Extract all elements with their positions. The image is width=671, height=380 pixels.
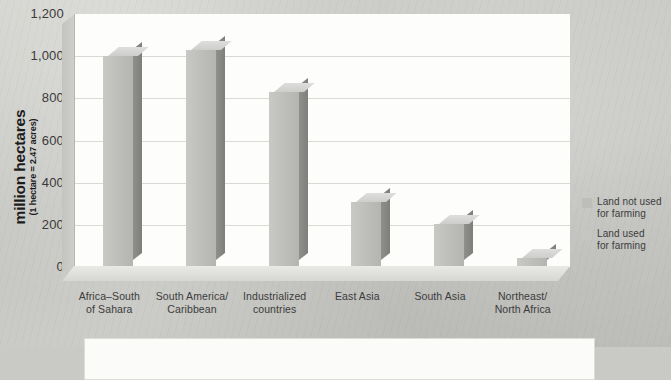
gridline <box>75 225 570 226</box>
x-axis-label-line: Africa–South <box>68 290 151 303</box>
x-axis-label-line: South Asia <box>399 290 482 303</box>
legend-swatch-icon <box>582 198 592 208</box>
plot-area <box>74 14 570 267</box>
bar-front-face <box>269 92 299 267</box>
x-axis-label-line: countries <box>233 303 316 316</box>
x-axis-label-line: East Asia <box>316 290 399 303</box>
legend-label: Land not used <box>597 196 668 208</box>
x-axis-label: East Asia <box>316 290 399 303</box>
gridline <box>75 56 570 57</box>
legend-item[interactable]: Land not usedfor farming <box>582 196 668 220</box>
bar <box>269 92 299 267</box>
x-axis-label-line: Northeast/ <box>481 290 564 303</box>
x-axis-label-line: Caribbean <box>151 303 234 316</box>
bar-side-face <box>133 42 142 260</box>
bar <box>186 50 216 267</box>
y-axis-tick-label: 0 <box>12 259 64 274</box>
bar-top-face <box>439 215 480 224</box>
bar-front-face <box>434 224 464 267</box>
x-axis-label-line: Industrialized <box>233 290 316 303</box>
x-axis-label-line: North Africa <box>481 303 564 316</box>
x-axis-label: South Asia <box>399 290 482 303</box>
y-axis-tick-label: 1,000 <box>12 48 64 63</box>
x-axis-label: Northeast/North Africa <box>481 290 564 316</box>
x-axis-label: South America/Caribbean <box>151 290 234 316</box>
bar-top-face <box>356 193 397 202</box>
gridline <box>75 98 570 99</box>
plot-floor <box>62 266 570 281</box>
y-axis-tick-labels: 1,2001,0008006004002000 <box>8 0 64 347</box>
bar-front-face <box>186 50 216 267</box>
x-axis-label: Industrializedcountries <box>233 290 316 316</box>
legend-item[interactable]: Land usedfor farming <box>582 228 668 252</box>
bar-front-face <box>351 202 381 267</box>
x-axis-label-line: South America/ <box>151 290 234 303</box>
y-axis-tick-label: 800 <box>12 90 64 105</box>
legend-label: Land used <box>597 228 668 240</box>
y-axis-tick-label: 600 <box>12 133 64 148</box>
bar-top-face <box>191 41 232 50</box>
legend-label: for farming <box>597 208 668 220</box>
bar <box>351 202 381 267</box>
bar-top-face <box>108 47 149 56</box>
bar-side-face <box>299 78 308 260</box>
y-axis-tick-label: 400 <box>12 175 64 190</box>
chart-legend: Land not usedfor farmingLand usedfor far… <box>582 196 668 260</box>
bar-top-face <box>274 83 315 92</box>
x-axis-category-labels: Africa–Southof SaharaSouth America/Carib… <box>62 290 570 330</box>
y-axis-tick-label: 1,200 <box>12 6 64 21</box>
bar <box>434 224 464 267</box>
legend-swatch-icon <box>582 230 592 240</box>
x-axis-label-line: of Sahara <box>68 303 151 316</box>
gridline <box>75 141 570 142</box>
gridline <box>75 183 570 184</box>
bar-top-face <box>522 249 563 258</box>
x-axis-label: Africa–Southof Sahara <box>68 290 151 316</box>
plot-3d-container <box>62 14 570 286</box>
bar-front-face <box>517 258 547 267</box>
bottom-white-panel <box>84 338 595 380</box>
bar-side-face <box>216 36 225 260</box>
y-axis-tick-label: 200 <box>12 217 64 232</box>
legend-label: for farming <box>597 240 668 252</box>
bar <box>103 56 133 267</box>
bar-front-face <box>103 56 133 267</box>
bar <box>517 258 547 267</box>
